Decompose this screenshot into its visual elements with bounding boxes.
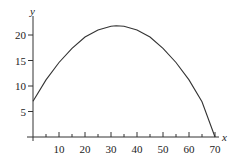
y-axis-label: y xyxy=(29,5,35,17)
x-tick-label: 50 xyxy=(158,143,170,155)
y-tick-label: 10 xyxy=(15,80,27,92)
ticks xyxy=(28,35,215,137)
y-tick-label: 5 xyxy=(21,106,27,118)
y-tick-label: 20 xyxy=(15,29,27,41)
x-tick-label: 60 xyxy=(184,143,196,155)
x-tick-label: 10 xyxy=(54,143,66,155)
x-axis-label: x xyxy=(221,131,227,143)
x-tick-label: 30 xyxy=(106,143,118,155)
axes xyxy=(27,16,219,141)
x-tick-label: 40 xyxy=(132,143,144,155)
data-curve xyxy=(33,26,215,137)
x-tick-label: 70 xyxy=(210,143,222,155)
x-tick-label: 20 xyxy=(80,143,92,155)
y-tick-label: 15 xyxy=(15,55,27,67)
chart: 102030405060705101520 x y xyxy=(0,0,237,159)
